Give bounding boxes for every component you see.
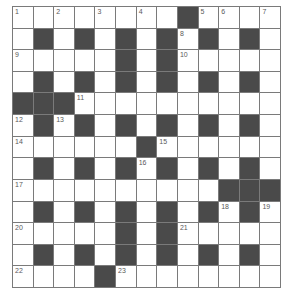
answer-cell[interactable] — [95, 180, 115, 201]
answer-cell[interactable] — [116, 180, 136, 201]
answer-cell[interactable] — [178, 158, 198, 179]
answer-cell[interactable] — [34, 266, 54, 287]
answer-cell[interactable]: 17 — [13, 180, 33, 201]
answer-cell[interactable] — [13, 72, 33, 93]
answer-cell[interactable] — [75, 137, 95, 158]
answer-cell[interactable] — [95, 158, 115, 179]
answer-cell[interactable] — [13, 158, 33, 179]
answer-cell[interactable] — [178, 93, 198, 114]
answer-cell[interactable]: 13 — [54, 115, 74, 136]
answer-cell[interactable]: 16 — [137, 158, 157, 179]
answer-cell[interactable] — [75, 7, 95, 28]
answer-cell[interactable]: 14 — [13, 137, 33, 158]
answer-cell[interactable]: 8 — [178, 29, 198, 50]
answer-cell[interactable] — [137, 223, 157, 244]
answer-cell[interactable] — [54, 137, 74, 158]
answer-cell[interactable] — [54, 72, 74, 93]
answer-cell[interactable] — [178, 137, 198, 158]
answer-cell[interactable]: 21 — [178, 223, 198, 244]
answer-cell[interactable] — [157, 93, 177, 114]
answer-cell[interactable] — [178, 72, 198, 93]
answer-cell[interactable] — [178, 245, 198, 266]
answer-cell[interactable]: 5 — [199, 7, 219, 28]
answer-cell[interactable] — [157, 180, 177, 201]
answer-cell[interactable] — [219, 266, 239, 287]
answer-cell[interactable]: 3 — [95, 7, 115, 28]
answer-cell[interactable]: 19 — [260, 202, 280, 223]
answer-cell[interactable] — [95, 137, 115, 158]
answer-cell[interactable] — [95, 223, 115, 244]
answer-cell[interactable] — [54, 245, 74, 266]
answer-cell[interactable] — [116, 137, 136, 158]
answer-cell[interactable] — [240, 223, 260, 244]
answer-cell[interactable] — [240, 93, 260, 114]
answer-cell[interactable]: 4 — [137, 7, 157, 28]
answer-cell[interactable]: 18 — [219, 202, 239, 223]
answer-cell[interactable]: 11 — [75, 93, 95, 114]
answer-cell[interactable] — [137, 29, 157, 50]
answer-cell[interactable] — [260, 223, 280, 244]
answer-cell[interactable] — [219, 223, 239, 244]
answer-cell[interactable] — [137, 245, 157, 266]
answer-cell[interactable] — [178, 202, 198, 223]
answer-cell[interactable]: 20 — [13, 223, 33, 244]
answer-cell[interactable] — [54, 29, 74, 50]
answer-cell[interactable] — [199, 137, 219, 158]
answer-cell[interactable] — [95, 245, 115, 266]
answer-cell[interactable] — [240, 50, 260, 71]
answer-cell[interactable] — [34, 137, 54, 158]
answer-cell[interactable] — [178, 266, 198, 287]
answer-cell[interactable] — [137, 266, 157, 287]
answer-cell[interactable] — [34, 7, 54, 28]
answer-cell[interactable] — [116, 93, 136, 114]
answer-cell[interactable] — [199, 266, 219, 287]
answer-cell[interactable] — [137, 202, 157, 223]
answer-cell[interactable] — [240, 7, 260, 28]
answer-cell[interactable] — [54, 158, 74, 179]
answer-cell[interactable] — [199, 50, 219, 71]
answer-cell[interactable]: 22 — [13, 266, 33, 287]
answer-cell[interactable] — [260, 72, 280, 93]
answer-cell[interactable] — [13, 245, 33, 266]
answer-cell[interactable]: 12 — [13, 115, 33, 136]
answer-cell[interactable] — [75, 223, 95, 244]
answer-cell[interactable]: 2 — [54, 7, 74, 28]
answer-cell[interactable] — [95, 29, 115, 50]
answer-cell[interactable]: 23 — [116, 266, 136, 287]
answer-cell[interactable] — [199, 180, 219, 201]
answer-cell[interactable] — [95, 93, 115, 114]
answer-cell[interactable] — [219, 50, 239, 71]
answer-cell[interactable] — [34, 180, 54, 201]
answer-cell[interactable] — [240, 266, 260, 287]
answer-cell[interactable] — [13, 202, 33, 223]
answer-cell[interactable] — [95, 50, 115, 71]
answer-cell[interactable] — [219, 72, 239, 93]
answer-cell[interactable] — [137, 72, 157, 93]
answer-cell[interactable]: 6 — [219, 7, 239, 28]
answer-cell[interactable] — [219, 93, 239, 114]
answer-cell[interactable]: 1 — [13, 7, 33, 28]
answer-cell[interactable] — [34, 50, 54, 71]
answer-cell[interactable]: 7 — [260, 7, 280, 28]
answer-cell[interactable] — [157, 266, 177, 287]
answer-cell[interactable] — [54, 202, 74, 223]
answer-cell[interactable] — [260, 158, 280, 179]
answer-cell[interactable] — [178, 115, 198, 136]
answer-cell[interactable] — [54, 223, 74, 244]
answer-cell[interactable] — [219, 115, 239, 136]
answer-cell[interactable] — [137, 180, 157, 201]
answer-cell[interactable]: 15 — [157, 137, 177, 158]
answer-cell[interactable] — [219, 137, 239, 158]
answer-cell[interactable] — [219, 29, 239, 50]
answer-cell[interactable] — [260, 137, 280, 158]
answer-cell[interactable] — [54, 50, 74, 71]
answer-cell[interactable] — [199, 93, 219, 114]
answer-cell[interactable] — [137, 50, 157, 71]
answer-cell[interactable] — [75, 50, 95, 71]
answer-cell[interactable] — [75, 180, 95, 201]
answer-cell[interactable] — [260, 115, 280, 136]
answer-cell[interactable] — [75, 266, 95, 287]
answer-cell[interactable] — [116, 7, 136, 28]
answer-cell[interactable] — [260, 245, 280, 266]
answer-cell[interactable] — [95, 202, 115, 223]
